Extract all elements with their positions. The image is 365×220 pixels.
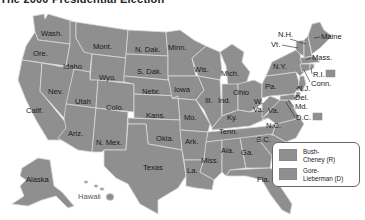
label-vt: Vt. <box>271 40 280 49</box>
dc-swatch <box>313 113 322 120</box>
label-ark: Ark. <box>185 137 199 146</box>
label-nebr: Nebr. <box>142 87 160 96</box>
label-nc: N.C. <box>266 121 281 130</box>
label-okla: Okla. <box>156 134 174 143</box>
label-wis: Wis. <box>194 65 209 74</box>
legend-label-gore-lieberman: Gore- Lieberman (D) <box>303 167 355 182</box>
label-ore: Ore. <box>33 49 48 58</box>
label-pa: Pa. <box>265 82 276 91</box>
label-alaska: Alaska <box>26 175 50 184</box>
label-iowa: Iowa <box>174 85 191 94</box>
bush-cheney-swatch <box>279 149 297 161</box>
label-utah: Utah <box>75 97 91 106</box>
label-nmex: N. Mex. <box>96 138 122 147</box>
label-ind: Ind. <box>218 96 231 105</box>
label-colo: Colo. <box>106 103 124 112</box>
label-sc: S.C. <box>256 135 271 144</box>
label-fla: Fla. <box>257 175 270 184</box>
label-ky: Ky. <box>227 113 237 122</box>
map-legend: Bush- Cheney (R) Gore- Lieberman (D) <box>272 142 360 187</box>
label-nj: N.J. <box>297 84 311 93</box>
label-calif: Calif. <box>26 106 43 115</box>
legend-label-bush-cheney: Bush- Cheney (R) <box>303 148 355 163</box>
label-ri: R.I. <box>313 70 325 79</box>
ri-swatch <box>326 70 335 77</box>
label-mass: Mass. <box>312 53 332 62</box>
legend-item-gore-lieberman: Gore- Lieberman (D) <box>279 167 355 182</box>
label-nh: N.H. <box>278 30 293 39</box>
label-conn: Conn. <box>311 79 331 88</box>
label-mich: Mich. <box>221 69 239 78</box>
label-idaho: Idaho <box>63 62 82 71</box>
label-md: Md. <box>295 102 308 111</box>
label-ill: Ill. <box>205 96 213 105</box>
label-ariz: Ariz. <box>68 129 83 138</box>
label-wash: Wash. <box>41 29 62 38</box>
label-miss: Miss. <box>201 156 219 165</box>
legend-item-bush-cheney: Bush- Cheney (R) <box>279 148 355 163</box>
state-michigan[interactable] <box>220 44 250 86</box>
label-maine: Maine <box>321 32 342 41</box>
label-la: La. <box>187 166 198 175</box>
label-va: Va. <box>268 106 279 115</box>
label-del: Del. <box>295 93 309 102</box>
label-kans: Kans. <box>146 111 165 120</box>
state-connecticut[interactable] <box>300 64 310 72</box>
label-mont: Mont. <box>93 42 112 51</box>
label-nev: Nev. <box>48 87 63 96</box>
label-texas: Texas <box>143 163 163 172</box>
label-wyo: Wyo. <box>99 73 116 82</box>
label-tenn: Tenn. <box>219 127 238 136</box>
label-ny: N.Y. <box>273 62 287 71</box>
label-wva-2: Va. <box>253 105 264 114</box>
label-minn: Minn. <box>168 43 187 52</box>
label-mo: Mo. <box>184 113 197 122</box>
label-hawaii: Hawaii <box>78 192 101 201</box>
label-ohio: Ohio <box>233 88 249 97</box>
label-dc: D.C. <box>296 113 311 122</box>
us-election-map: Wash. Ore. Calif. Idaho Nev. Mont. Wyo. … <box>0 0 365 220</box>
label-ga: Ga. <box>241 148 253 157</box>
label-ala: Ala. <box>221 146 234 155</box>
label-ndak: N. Dak. <box>135 45 160 54</box>
gore-lieberman-swatch <box>279 168 297 180</box>
label-sdak: S. Dak. <box>137 67 162 76</box>
